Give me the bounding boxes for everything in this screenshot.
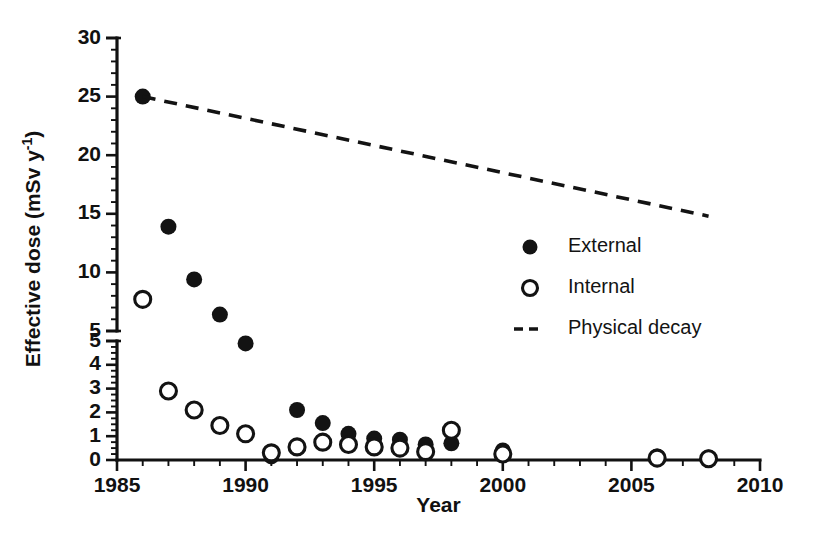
legend-marker-external bbox=[523, 240, 538, 255]
x-tick-label: 2005 bbox=[608, 473, 655, 496]
legend-label: Internal bbox=[568, 275, 635, 297]
data-point-internal bbox=[366, 439, 382, 455]
data-point-internal bbox=[392, 440, 408, 456]
data-point-internal bbox=[340, 437, 356, 453]
y-tick-label-lower: 0 bbox=[89, 447, 101, 470]
data-point-internal bbox=[160, 383, 176, 399]
data-point-internal bbox=[263, 445, 279, 461]
x-tick-label: 1990 bbox=[222, 473, 269, 496]
y-tick-label-upper: 10 bbox=[78, 259, 101, 282]
physical-decay-line bbox=[143, 97, 709, 217]
y-tick-label-upper: 20 bbox=[78, 142, 101, 165]
y-tick-label-lower: 2 bbox=[89, 399, 101, 422]
y-tick-label-lower: 3 bbox=[89, 375, 101, 398]
y-tick-label-upper: 30 bbox=[78, 25, 101, 48]
y-axis-title-close: ) bbox=[21, 131, 44, 138]
chart-legend: ExternalInternalPhysical decay bbox=[514, 234, 701, 338]
data-point-internal bbox=[418, 444, 434, 460]
data-point-external bbox=[186, 271, 202, 287]
data-point-internal bbox=[186, 402, 202, 418]
data-point-internal bbox=[212, 417, 228, 433]
data-point-external bbox=[160, 219, 176, 235]
axis-titles-group: YearEffective dose (mSv y-1) bbox=[19, 131, 461, 516]
legend-label: External bbox=[568, 234, 641, 256]
figure-container: 5101520253001234519851990199520002005201… bbox=[0, 0, 814, 549]
y-tick-label-upper: 15 bbox=[78, 200, 102, 223]
data-point-internal bbox=[315, 434, 331, 450]
x-tick-label: 2000 bbox=[479, 473, 526, 496]
chart-canvas: 5101520253001234519851990199520002005201… bbox=[0, 0, 814, 549]
x-tick-label: 2010 bbox=[737, 473, 784, 496]
data-point-internal bbox=[649, 450, 665, 466]
data-point-internal bbox=[289, 439, 305, 455]
data-point-external bbox=[315, 415, 331, 431]
data-point-internal bbox=[135, 291, 151, 307]
data-point-external bbox=[238, 335, 254, 351]
x-tick-label: 1995 bbox=[351, 473, 398, 496]
x-axis-title: Year bbox=[416, 493, 460, 516]
y-axis-title-exponent: -1 bbox=[19, 138, 35, 151]
data-point-internal bbox=[443, 422, 459, 438]
data-point-internal bbox=[238, 426, 254, 442]
data-point-external bbox=[289, 402, 305, 418]
data-point-external bbox=[212, 307, 228, 323]
y-tick-label-lower: 1 bbox=[89, 423, 101, 446]
y-tick-label-lower: 4 bbox=[89, 351, 101, 374]
data-point-internal bbox=[495, 446, 511, 462]
axes-group: 5101520253001234519851990199520002005201… bbox=[78, 25, 784, 497]
legend-marker-internal bbox=[523, 281, 538, 296]
y-tick-label-upper: 25 bbox=[78, 83, 102, 106]
legend-label: Physical decay bbox=[568, 316, 701, 338]
y-axis-title: Effective dose (mSv y-1) bbox=[19, 131, 44, 368]
y-axis-title-main: Effective dose (mSv y bbox=[21, 150, 44, 367]
data-point-internal bbox=[701, 451, 717, 467]
x-tick-label: 1985 bbox=[94, 473, 141, 496]
y-tick-label-lower: 5 bbox=[89, 328, 101, 351]
